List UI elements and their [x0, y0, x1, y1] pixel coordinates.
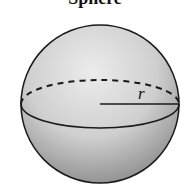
radius-label: r	[138, 84, 145, 103]
sphere-diagram: r	[0, 0, 190, 192]
